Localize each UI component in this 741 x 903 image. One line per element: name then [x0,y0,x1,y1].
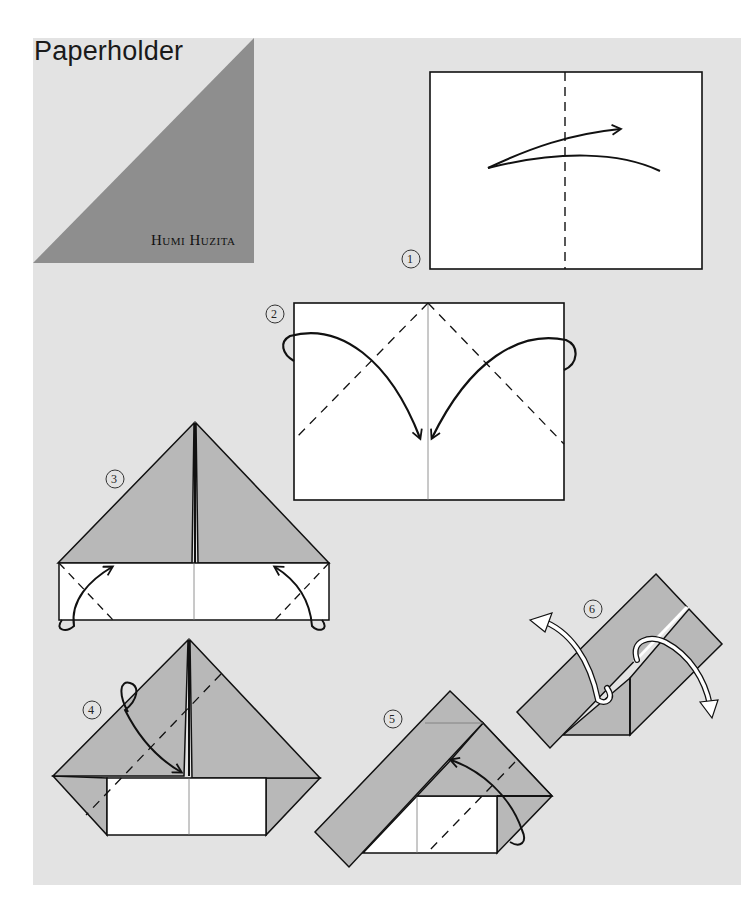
folding-diagram: 1 2 3 [0,0,741,903]
svg-text:1: 1 [407,252,413,266]
step-1: 1 [402,72,702,269]
step-number-3: 3 [106,470,124,488]
svg-text:3: 3 [111,472,117,486]
step-6: 6 [517,574,722,748]
step-number-1: 1 [402,250,420,268]
step-4: 4 [53,640,320,835]
step-number-5: 5 [384,710,402,728]
step-number-6: 6 [584,600,602,618]
step-3: 3 [58,423,329,630]
svg-text:4: 4 [88,703,94,717]
svg-text:2: 2 [271,307,277,321]
svg-text:5: 5 [389,712,395,726]
step-number-2: 2 [266,305,284,323]
step-2: 2 [266,303,576,500]
step-number-4: 4 [83,701,101,719]
step-5: 5 [315,691,552,867]
svg-text:6: 6 [589,602,595,616]
